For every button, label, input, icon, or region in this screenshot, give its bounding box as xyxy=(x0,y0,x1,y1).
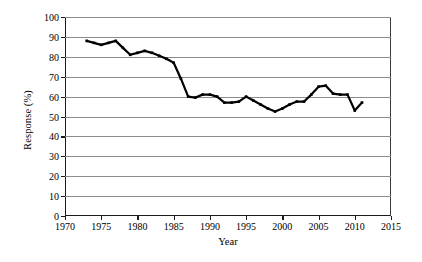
data-point-marker xyxy=(122,47,125,50)
data-point-marker xyxy=(274,110,277,113)
x-tick-label: 1980 xyxy=(127,221,147,232)
data-point-marker xyxy=(158,55,161,58)
x-tick-mark xyxy=(391,216,392,220)
data-point-marker xyxy=(216,95,219,98)
x-axis-title: Year xyxy=(65,236,391,247)
data-point-marker xyxy=(245,95,248,98)
data-point-marker xyxy=(114,40,117,43)
data-point-marker xyxy=(361,101,364,104)
y-tick-label: 30 xyxy=(49,151,59,162)
data-point-marker xyxy=(100,44,103,47)
data-point-marker xyxy=(252,99,255,102)
x-tick-mark xyxy=(174,216,175,220)
data-point-marker xyxy=(201,93,204,96)
data-point-marker xyxy=(129,54,132,57)
y-tick-label: 100 xyxy=(44,12,59,23)
data-point-marker xyxy=(85,40,88,43)
data-point-marker xyxy=(238,100,241,103)
x-tick-mark xyxy=(282,216,283,220)
data-point-marker xyxy=(172,61,175,64)
x-tick-mark xyxy=(246,216,247,220)
y-tick-label: 90 xyxy=(49,31,59,42)
y-tick-label: 40 xyxy=(49,131,59,142)
series-line-response-rate xyxy=(65,17,391,216)
data-point-marker xyxy=(165,57,168,60)
data-point-marker xyxy=(325,84,328,87)
data-point-marker xyxy=(180,77,183,80)
data-point-marker xyxy=(317,85,320,88)
x-tick-label: 1995 xyxy=(236,221,256,232)
plot-area: 0102030405060708090100 19701975198019851… xyxy=(65,17,391,216)
data-point-marker xyxy=(288,103,291,106)
y-tick-label: 20 xyxy=(49,171,59,182)
x-tick-mark xyxy=(137,216,138,220)
y-tick-label: 50 xyxy=(49,111,59,122)
x-tick-label: 2015 xyxy=(381,221,401,232)
data-point-marker xyxy=(230,101,233,104)
data-point-marker xyxy=(143,50,146,53)
data-point-marker xyxy=(187,95,190,98)
x-tick-label: 1975 xyxy=(91,221,111,232)
data-point-marker xyxy=(151,52,154,55)
data-point-marker xyxy=(296,100,299,103)
data-point-marker xyxy=(209,93,212,96)
data-point-marker xyxy=(346,93,349,96)
data-point-marker xyxy=(194,96,197,99)
x-tick-mark xyxy=(319,216,320,220)
x-tick-label: 1990 xyxy=(200,221,220,232)
x-tick-mark xyxy=(101,216,102,220)
x-tick-mark xyxy=(210,216,211,220)
data-point-marker xyxy=(303,100,306,103)
y-tick-label: 10 xyxy=(49,191,59,202)
data-point-marker xyxy=(107,42,110,45)
y-tick-label: 70 xyxy=(49,71,59,82)
y-axis-title: Response (%) xyxy=(22,15,36,225)
data-point-marker xyxy=(310,93,313,96)
data-point-marker xyxy=(267,107,270,110)
x-tick-label: 2010 xyxy=(345,221,365,232)
x-tick-label: 1970 xyxy=(55,221,75,232)
data-point-marker xyxy=(136,52,139,55)
x-tick-mark xyxy=(355,216,356,220)
data-point-marker xyxy=(339,93,342,96)
y-tick-label: 80 xyxy=(49,51,59,62)
x-tick-mark xyxy=(65,216,66,220)
y-tick-label: 60 xyxy=(49,91,59,102)
line-chart-figure: Response (%) 0102030405060708090100 1970… xyxy=(0,0,422,262)
data-point-marker xyxy=(93,42,96,45)
data-point-marker xyxy=(353,109,356,112)
y-tick-label: 0 xyxy=(54,211,59,222)
data-point-marker xyxy=(223,101,226,104)
data-point-marker xyxy=(281,107,284,110)
x-tick-label: 1985 xyxy=(164,221,184,232)
x-tick-label: 2005 xyxy=(309,221,329,232)
data-point-marker xyxy=(332,92,335,95)
data-point-marker xyxy=(259,103,262,106)
x-tick-label: 2000 xyxy=(272,221,292,232)
